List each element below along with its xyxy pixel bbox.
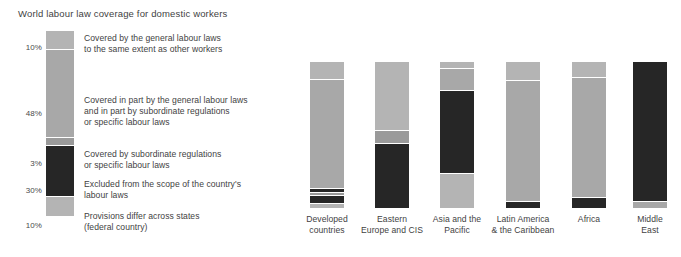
- bar-group[interactable]: Africa: [572, 62, 606, 208]
- bar-segment[interactable]: [375, 62, 409, 131]
- legend-swatch: [46, 50, 74, 139]
- bar-group[interactable]: Eastern Europe and CIS: [375, 62, 409, 208]
- bar-group[interactable]: Latin America & the Caribbean: [506, 62, 540, 208]
- bar-segment[interactable]: [310, 196, 344, 203]
- bar-segment[interactable]: [440, 69, 474, 91]
- bar-stack[interactable]: [506, 62, 540, 208]
- bar-segment[interactable]: [572, 198, 606, 208]
- bar-segment[interactable]: [375, 131, 409, 144]
- legend-percent-label: 30%: [8, 186, 42, 195]
- legend-swatch: [46, 197, 74, 216]
- page-title: World labour law coverage for domestic w…: [18, 8, 227, 19]
- legend-percent-label: 10%: [8, 221, 42, 230]
- bar-category-label: Middle East: [602, 214, 681, 237]
- bar-segment[interactable]: [572, 62, 606, 78]
- legend-percent-label: 48%: [8, 109, 42, 118]
- bar-group[interactable]: Asia and the Pacific: [440, 62, 474, 208]
- bar-segment[interactable]: [375, 144, 409, 208]
- bar-segment[interactable]: [506, 202, 540, 208]
- bar-segment[interactable]: [440, 174, 474, 208]
- bar-segment[interactable]: [633, 202, 667, 208]
- bar-segment[interactable]: [440, 91, 474, 174]
- legend-swatch: [46, 138, 74, 145]
- legend-swatch: [46, 146, 74, 198]
- bar-stack[interactable]: [375, 62, 409, 208]
- bar-stack[interactable]: [572, 62, 606, 208]
- legend-key-bar: [46, 31, 74, 216]
- legend-item-label: Covered by the general labour laws to th…: [84, 33, 222, 55]
- bar-segment[interactable]: [310, 80, 344, 190]
- bar-group[interactable]: Middle East: [633, 62, 667, 208]
- bar-segment[interactable]: [310, 204, 344, 208]
- bar-stack[interactable]: [310, 62, 344, 208]
- legend-swatch: [46, 31, 74, 50]
- bar-segment[interactable]: [633, 62, 667, 202]
- legend-percent-label: 10%: [8, 43, 42, 52]
- bar-stack[interactable]: [633, 62, 667, 208]
- chart-legend: 10%Covered by the general labour laws to…: [0, 31, 290, 221]
- bar-segment[interactable]: [506, 81, 540, 202]
- bar-segment[interactable]: [440, 62, 474, 69]
- bar-group[interactable]: Developed countries: [310, 62, 344, 208]
- chart-plot-area: Developed countriesEastern Europe and CI…: [300, 0, 681, 257]
- bar-segment[interactable]: [506, 62, 540, 81]
- legend-item-label: Provisions differ across states (federal…: [84, 211, 200, 233]
- legend-item-label: Covered by subordinate regulations or sp…: [84, 149, 221, 171]
- legend-item-label: Excluded from the scope of the country's…: [84, 179, 241, 201]
- bar-segment[interactable]: [572, 78, 606, 198]
- legend-item-label: Covered in part by the general labour la…: [84, 95, 248, 129]
- legend-percent-label: 3%: [8, 159, 42, 168]
- bar-stack[interactable]: [440, 62, 474, 208]
- bar-segment[interactable]: [310, 62, 344, 80]
